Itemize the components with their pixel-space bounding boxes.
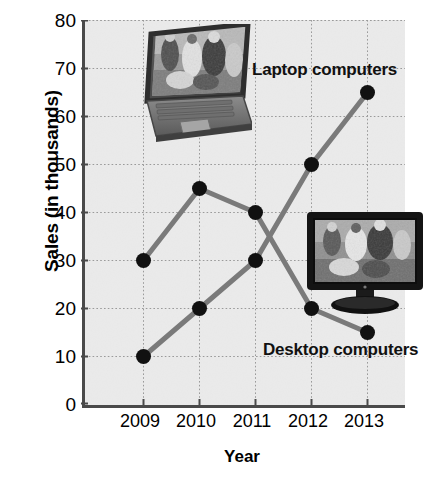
x-axis-tick-labels: 2009 2010 2011 2012 2013 xyxy=(0,0,445,477)
x-tick-label: 2013 xyxy=(334,411,394,432)
chart-figure: Sales (in thousands) 80 70 60 50 40 30 2… xyxy=(0,0,445,477)
x-axis-title: Year xyxy=(82,447,402,467)
x-tick-label: 2012 xyxy=(278,411,338,432)
x-tick-label: 2011 xyxy=(222,411,282,432)
x-tick-label: 2010 xyxy=(166,411,226,432)
x-tick-label: 2009 xyxy=(110,411,170,432)
